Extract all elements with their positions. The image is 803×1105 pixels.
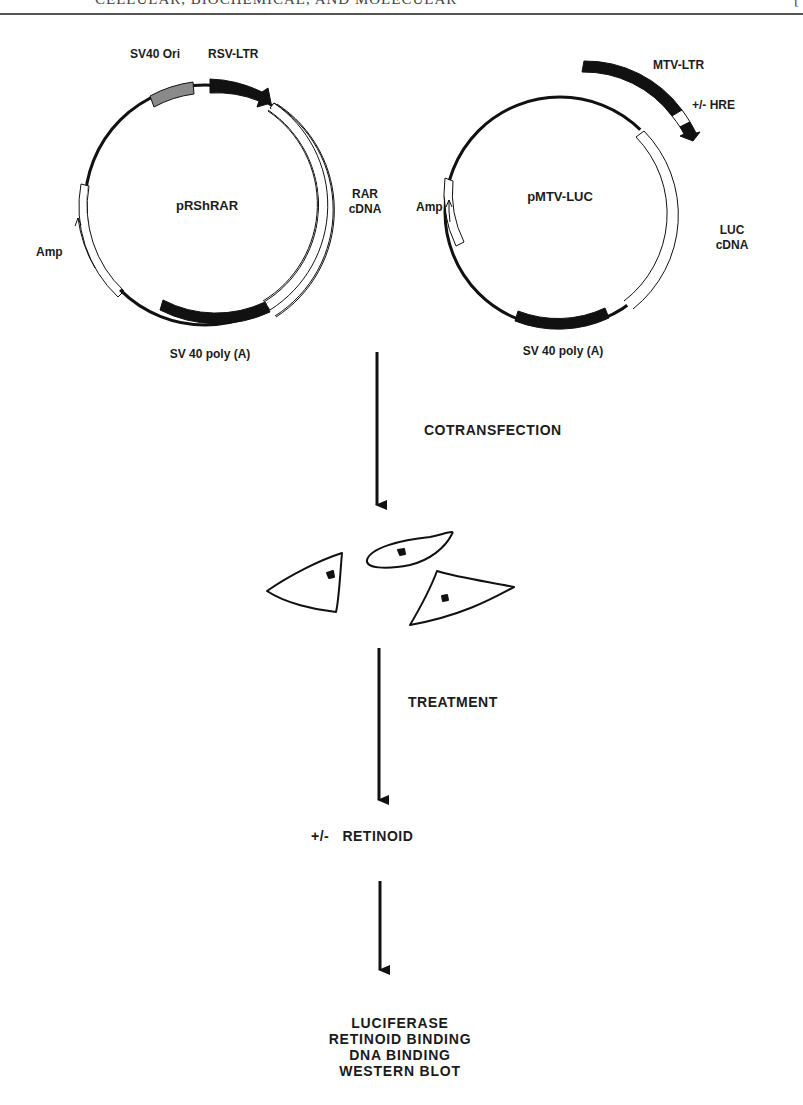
step-label-treatment: TREATMENT	[408, 694, 498, 710]
label-rar-line2: cDNA	[345, 202, 385, 217]
rsv-ltr-arrow	[210, 79, 271, 107]
cell-middle	[367, 532, 453, 568]
result-retinoid-binding: RETINOID BINDING	[300, 1031, 500, 1047]
label-luc-line1: LUC	[712, 223, 752, 238]
label-rsv-ltr: RSV-LTR	[208, 47, 258, 61]
cell-drawings	[267, 532, 514, 625]
label-rar-cdna: RAR cDNA	[345, 187, 385, 217]
assay-results-list: LUCIFERASE RETINOID BINDING DNA BINDING …	[300, 1015, 500, 1079]
cell-right	[410, 571, 514, 625]
label-sv40-polya-right: SV 40 poly (A)	[503, 344, 623, 358]
label-hre: +/- HRE	[692, 98, 735, 112]
diagram-canvas	[0, 0, 803, 1105]
label-sv40-polya-left: SV 40 poly (A)	[150, 347, 270, 361]
plasmid-name-prshrar: pRShRAR	[152, 198, 262, 213]
plasmid-name-pmtv-luc: pMTV-LUC	[505, 189, 615, 204]
label-luc-cdna: LUC cDNA	[712, 223, 752, 253]
label-amp-left: Amp	[36, 245, 63, 259]
cell-nucleus	[442, 595, 448, 601]
result-western-blot: WESTERN BLOT	[300, 1063, 500, 1079]
cell-nucleus	[327, 571, 334, 578]
label-rar-line1: RAR	[345, 187, 385, 202]
sv40-polya-box-right	[515, 308, 609, 329]
step-label-cotransfection: COTRANSFECTION	[424, 422, 562, 438]
cell-nucleus	[398, 549, 405, 555]
label-mtv-ltr: MTV-LTR	[653, 58, 704, 72]
stage-label-retinoid: +/- RETINOID	[311, 828, 413, 844]
label-sv40-ori: SV40 Ori	[130, 47, 180, 61]
label-amp-right: Amp	[416, 200, 443, 214]
result-luciferase: LUCIFERASE	[300, 1015, 500, 1031]
sv40-ori-box	[150, 82, 194, 107]
result-dna-binding: DNA BINDING	[300, 1047, 500, 1063]
cell-left	[267, 553, 342, 612]
label-luc-line2: cDNA	[712, 238, 752, 253]
